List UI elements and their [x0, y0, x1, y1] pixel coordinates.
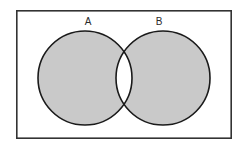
set-b-label: B [156, 16, 163, 27]
venn-diagram-figure: A B [0, 0, 247, 150]
venn-diagram-canvas: A B [0, 0, 247, 150]
set-a-label: A [85, 16, 92, 27]
